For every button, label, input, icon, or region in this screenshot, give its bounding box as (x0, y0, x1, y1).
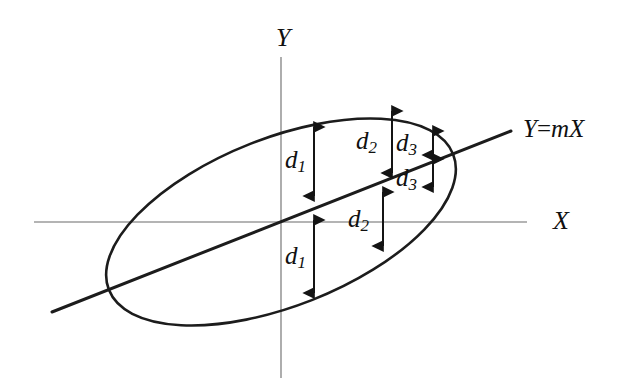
measure-d2-upper-symbol: d (356, 127, 369, 154)
axes-group: X Y (34, 23, 570, 378)
measure-d3-lower-symbol: d (396, 164, 409, 191)
measure-d3-lower-subscript: 3 (408, 175, 418, 194)
measure-d2-upper-subscript: 2 (369, 138, 378, 157)
figure-container: X Y Y=mX d1 d1 (0, 0, 623, 392)
regression-label-slope: m (551, 115, 569, 142)
regression-line-label: Y=mX (523, 115, 586, 142)
measure-d1-lower-symbol: d (285, 242, 298, 269)
measure-d1-upper: d1 (285, 127, 314, 196)
diagram-canvas: X Y Y=mX d1 d1 (0, 0, 623, 392)
measure-d1-upper-label: d1 (285, 146, 306, 176)
measure-d1-upper-symbol: d (285, 146, 298, 173)
x-axis-label: X (552, 206, 570, 235)
regression-label-variable: X (568, 115, 586, 142)
measure-d2-lower-subscript: 2 (361, 216, 370, 235)
measure-d2-lower-symbol: d (348, 205, 361, 232)
measure-d3-upper-label: d3 (396, 129, 417, 159)
measure-d2-lower-label: d2 (348, 205, 370, 235)
measure-d1-lower: d1 (285, 220, 314, 293)
measure-d1-lower-label: d1 (285, 242, 306, 272)
y-axis-label: Y (276, 23, 293, 52)
regression-line-group: Y=mX (52, 115, 586, 312)
measure-d3-upper: d3 (396, 129, 433, 159)
measure-d1-upper-subscript: 1 (298, 157, 307, 176)
measure-d2-upper-label: d2 (356, 127, 378, 157)
measure-d1-lower-subscript: 1 (298, 253, 307, 272)
measure-d2-lower: d2 (348, 192, 383, 246)
regression-label-operator: = (537, 115, 551, 142)
measure-d3-upper-subscript: 3 (408, 140, 418, 159)
measure-d3-upper-symbol: d (396, 129, 409, 156)
